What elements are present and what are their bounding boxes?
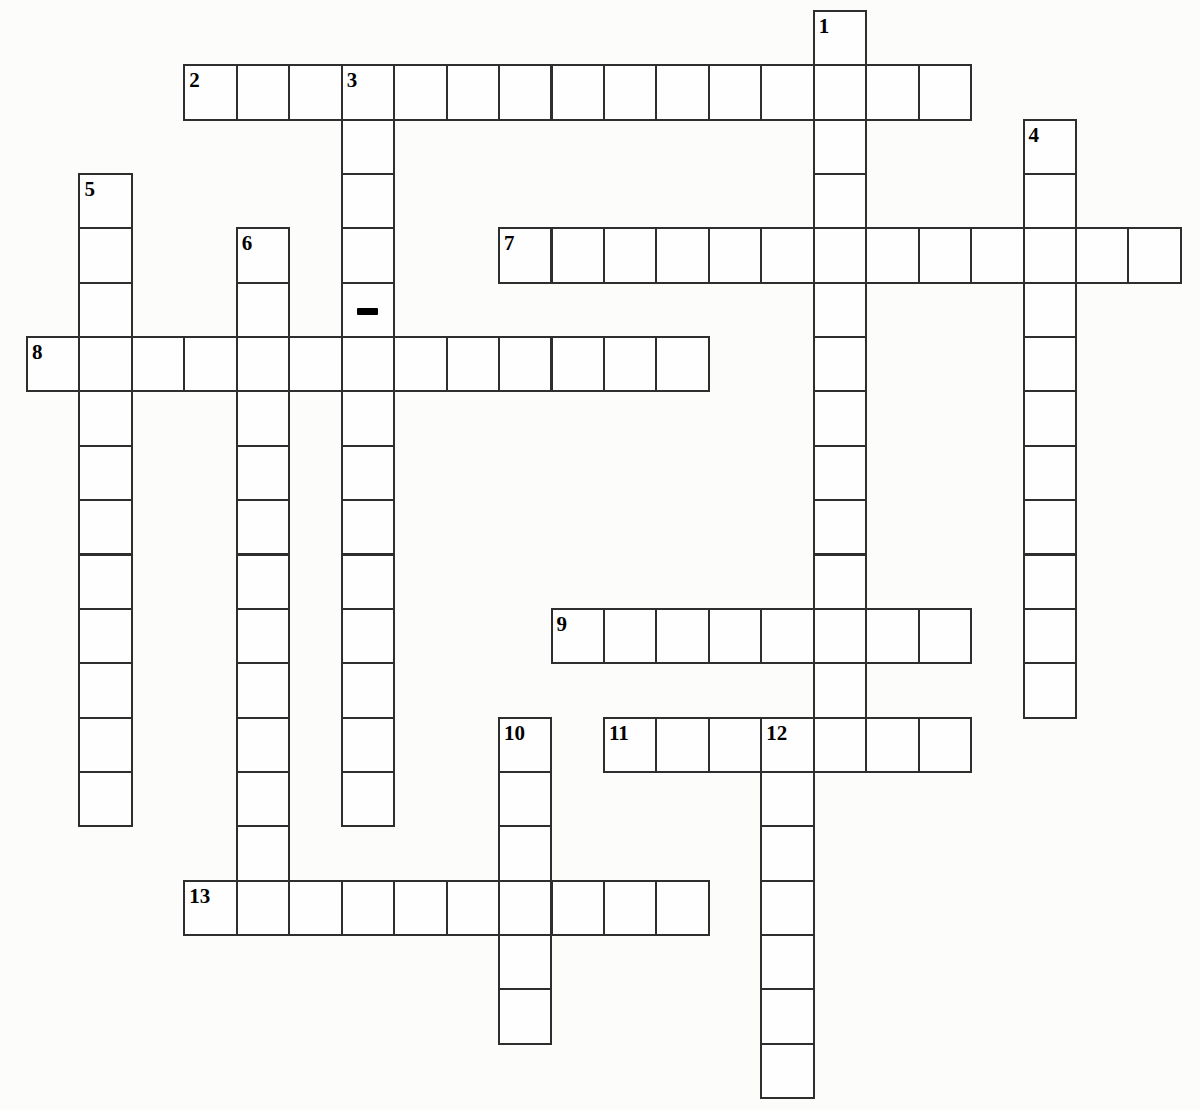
answer-cell[interactable] [236, 227, 290, 283]
answer-cell[interactable] [236, 825, 290, 881]
answer-cell[interactable] [1075, 227, 1129, 283]
answer-cell[interactable] [498, 717, 552, 773]
answer-cell[interactable] [78, 554, 132, 610]
answer-cell[interactable] [78, 282, 132, 338]
answer-cell[interactable] [341, 771, 395, 827]
answer-cell[interactable] [813, 608, 867, 664]
answer-cell[interactable] [603, 880, 657, 936]
answer-cell[interactable] [236, 554, 290, 610]
answer-cell[interactable] [78, 227, 132, 283]
answer-cell[interactable] [393, 880, 447, 936]
answer-cell[interactable] [341, 880, 395, 936]
answer-cell[interactable] [708, 717, 762, 773]
answer-cell[interactable] [236, 717, 290, 773]
answer-cell[interactable] [865, 717, 919, 773]
answer-cell[interactable] [655, 64, 709, 120]
answer-cell[interactable] [393, 64, 447, 120]
answer-cell[interactable] [236, 445, 290, 501]
answer-cell[interactable] [78, 445, 132, 501]
answer-cell[interactable] [288, 336, 342, 392]
answer-cell[interactable] [655, 336, 709, 392]
answer-cell[interactable] [813, 445, 867, 501]
answer-cell[interactable] [236, 499, 290, 555]
answer-cell[interactable] [498, 934, 552, 990]
answer-cell[interactable] [1023, 227, 1077, 283]
answer-cell[interactable] [446, 880, 500, 936]
answer-cell[interactable] [78, 390, 132, 446]
answer-cell[interactable] [498, 880, 552, 936]
answer-cell[interactable] [236, 336, 290, 392]
answer-cell[interactable] [78, 173, 132, 229]
answer-cell[interactable] [813, 64, 867, 120]
answer-cell[interactable] [341, 64, 395, 120]
answer-cell[interactable] [341, 499, 395, 555]
answer-cell[interactable] [78, 499, 132, 555]
answer-cell[interactable] [236, 608, 290, 664]
answer-cell[interactable] [551, 336, 605, 392]
answer-cell[interactable] [236, 282, 290, 338]
answer-cell[interactable] [603, 608, 657, 664]
answer-cell[interactable] [760, 608, 814, 664]
answer-cell[interactable] [970, 227, 1024, 283]
answer-cell[interactable] [760, 717, 814, 773]
answer-cell[interactable] [131, 336, 185, 392]
answer-cell[interactable] [78, 336, 132, 392]
answer-cell[interactable] [1023, 554, 1077, 610]
answer-cell[interactable] [655, 717, 709, 773]
answer-cell[interactable] [236, 771, 290, 827]
answer-cell[interactable] [760, 771, 814, 827]
answer-cell[interactable] [813, 282, 867, 338]
answer-cell[interactable] [26, 336, 80, 392]
answer-cell[interactable] [551, 64, 605, 120]
answer-cell[interactable] [1023, 608, 1077, 664]
answer-cell[interactable] [813, 662, 867, 718]
answer-cell[interactable] [78, 608, 132, 664]
answer-cell[interactable] [341, 554, 395, 610]
answer-cell[interactable] [288, 64, 342, 120]
answer-cell[interactable] [551, 880, 605, 936]
answer-cell[interactable] [760, 64, 814, 120]
answer-cell[interactable] [708, 227, 762, 283]
answer-cell[interactable] [708, 64, 762, 120]
answer-cell[interactable] [78, 717, 132, 773]
answer-cell[interactable] [446, 64, 500, 120]
answer-cell[interactable] [603, 227, 657, 283]
answer-cell[interactable] [341, 445, 395, 501]
answer-cell[interactable] [813, 119, 867, 175]
answer-cell[interactable] [551, 227, 605, 283]
answer-cell[interactable] [813, 499, 867, 555]
answer-cell[interactable] [551, 608, 605, 664]
answer-cell[interactable] [1023, 662, 1077, 718]
answer-cell[interactable] [603, 64, 657, 120]
answer-cell[interactable] [1023, 173, 1077, 229]
answer-cell[interactable] [813, 336, 867, 392]
answer-cell[interactable] [341, 717, 395, 773]
answer-cell[interactable] [918, 227, 972, 283]
answer-cell[interactable] [918, 608, 972, 664]
answer-cell[interactable] [498, 64, 552, 120]
answer-cell[interactable] [498, 771, 552, 827]
answer-cell[interactable] [1023, 282, 1077, 338]
answer-cell[interactable] [813, 554, 867, 610]
answer-cell[interactable] [655, 608, 709, 664]
answer-cell[interactable] [236, 64, 290, 120]
answer-cell[interactable] [498, 336, 552, 392]
answer-cell[interactable] [446, 336, 500, 392]
answer-cell[interactable] [603, 336, 657, 392]
answer-cell[interactable] [236, 662, 290, 718]
answer-cell[interactable] [813, 390, 867, 446]
answer-cell[interactable] [655, 880, 709, 936]
answer-cell[interactable] [498, 227, 552, 283]
answer-cell[interactable] [813, 173, 867, 229]
answer-cell[interactable] [865, 64, 919, 120]
answer-cell[interactable] [708, 608, 762, 664]
answer-cell[interactable] [918, 717, 972, 773]
answer-cell[interactable] [813, 10, 867, 66]
answer-cell[interactable] [760, 227, 814, 283]
answer-cell[interactable] [183, 64, 237, 120]
answer-cell[interactable] [760, 880, 814, 936]
answer-cell[interactable] [760, 934, 814, 990]
answer-cell[interactable] [760, 1043, 814, 1099]
answer-cell[interactable] [341, 390, 395, 446]
answer-cell[interactable] [341, 227, 395, 283]
